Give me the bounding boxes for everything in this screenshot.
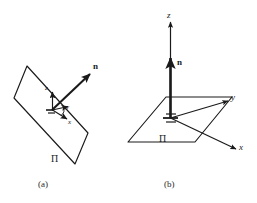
- axis-x-a: [53, 110, 68, 119]
- normal-label-b: n: [177, 58, 182, 67]
- axis-y-b: [171, 101, 229, 118]
- axis-y-label-a: y: [66, 104, 69, 111]
- plane-pi-a: [14, 66, 88, 164]
- axis-z-label-b: z: [167, 11, 171, 20]
- panel-a-graphics: [14, 66, 90, 164]
- plane-label-b: Π: [159, 134, 166, 144]
- axis-y-label-b: y: [231, 93, 235, 102]
- figure-vector-graphics: [0, 0, 257, 203]
- normal-vector-a: [52, 74, 90, 110]
- axis-x-label-a: x: [68, 119, 71, 126]
- plane-label-a: Π: [51, 154, 58, 164]
- caption-b: (b): [164, 180, 175, 189]
- normal-label-a: n: [93, 62, 98, 71]
- axis-x-label-b: x: [239, 143, 243, 152]
- plane-pi-b: [128, 97, 232, 142]
- axis-x-b: [171, 118, 237, 149]
- caption-a: (a): [38, 180, 48, 189]
- figure-container: n z y x Π (a) z n y x Π (b): [0, 0, 257, 203]
- axis-z-label-a: z: [45, 85, 48, 92]
- panel-b-graphics: [128, 22, 236, 149]
